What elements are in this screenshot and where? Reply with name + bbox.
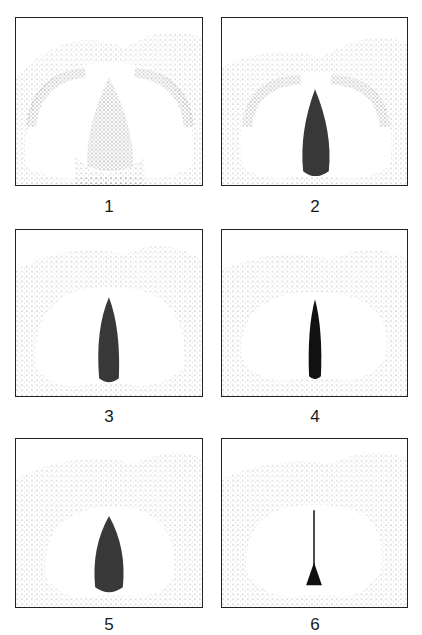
larynx-illustration-3 xyxy=(16,230,202,396)
larynx-illustration-2 xyxy=(222,18,407,185)
panel-5 xyxy=(15,438,203,608)
panel-label-5: 5 xyxy=(89,616,129,633)
panel-label-1: 1 xyxy=(89,198,129,215)
larynx-illustration-1 xyxy=(16,18,202,185)
larynx-illustration-4 xyxy=(222,230,407,396)
panel-2 xyxy=(221,17,408,186)
larynx-illustration-6 xyxy=(222,439,407,607)
panel-1 xyxy=(15,17,203,186)
panel-4 xyxy=(221,229,408,397)
panel-label-4: 4 xyxy=(295,408,335,425)
panel-3 xyxy=(15,229,203,397)
panel-label-3: 3 xyxy=(89,408,129,425)
panel-label-2: 2 xyxy=(295,198,335,215)
larynx-illustration-5 xyxy=(16,439,202,607)
panel-label-6: 6 xyxy=(295,616,335,633)
panel-6 xyxy=(221,438,408,608)
